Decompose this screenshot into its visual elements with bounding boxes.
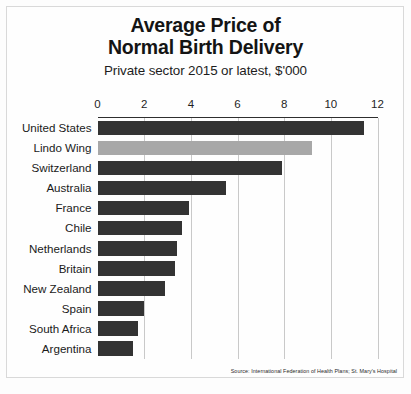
x-tick-label: 0 [94,98,100,110]
x-tick-label: 12 [371,98,384,110]
bar-row: Lindo Wing [98,138,378,158]
bar [98,241,177,256]
category-label: New Zealand [23,281,91,296]
bar-row: Britain [98,259,378,279]
bar-row: South Africa [98,319,378,339]
chart-title-line-1: Average Price of [0,14,411,36]
category-label: Argentina [42,341,92,356]
bar [98,321,139,336]
bar [98,181,226,196]
x-tick-label: 4 [188,98,194,110]
chart-title-line-2: Normal Birth Delivery [0,36,411,58]
category-label: France [55,200,91,215]
chart-subtitle: Private sector 2015 or latest, $'000 [0,63,411,79]
x-tick-label: 8 [281,98,287,110]
chart-source-note: Source: International Federation of Heal… [231,368,397,374]
bar [98,161,282,176]
bar [98,121,364,136]
bar [98,301,145,316]
category-label: South Africa [29,321,92,336]
bar-row: France [98,198,378,218]
category-label: Switzerland [32,160,92,175]
bar-row: Switzerland [98,158,378,178]
chart-title: Average Price of Normal Birth Delivery [0,14,411,58]
bar [98,201,189,216]
bar-row: Chile [98,218,378,238]
bar-row: Argentina [98,339,378,359]
category-label: Australia [46,180,91,195]
bar-row: Australia [98,178,378,198]
chart-figure: Average Price of Normal Birth Delivery P… [0,0,411,394]
bar [98,341,133,356]
category-label: United States [22,120,92,135]
bar-row: Netherlands [98,239,378,259]
category-label: Netherlands [29,241,92,256]
x-gridline [378,118,379,359]
bar [98,261,175,276]
category-label: Britain [59,261,92,276]
category-label: Spain [62,301,92,316]
x-tick-label: 10 [324,98,337,110]
plot-area: 024681012United StatesLindo WingSwitzerl… [98,118,378,359]
category-label: Chile [65,220,91,235]
bar-row: New Zealand [98,279,378,299]
x-tick-label: 6 [234,98,240,110]
x-tick-label: 2 [141,98,147,110]
bar [98,141,313,156]
bar [98,281,166,296]
bar-row: Spain [98,299,378,319]
bar-row: United States [98,118,378,138]
category-label: Lindo Wing [33,140,91,155]
bar [98,221,182,236]
